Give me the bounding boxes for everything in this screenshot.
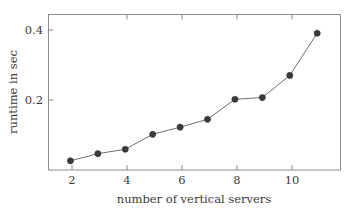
x-tick-label-10: 10 — [285, 173, 300, 187]
data-point — [67, 158, 73, 164]
x-tick-label-2: 2 — [68, 173, 75, 187]
data-point — [287, 72, 293, 78]
x-axis-title: number of vertical servers — [117, 192, 272, 206]
x-tick-label-4: 4 — [123, 173, 130, 187]
x-tick-label-6: 6 — [178, 173, 185, 187]
data-point — [259, 94, 265, 100]
y-tick-label-0.4: 0.4 — [25, 23, 43, 37]
data-point — [177, 124, 183, 130]
data-point — [204, 116, 210, 122]
data-point — [150, 131, 156, 137]
data-point — [314, 30, 320, 36]
data-point — [95, 151, 101, 157]
chart-page: 0.4 0.2 2 4 6 8 10 number of vertical se… — [0, 0, 357, 210]
y-axis-title: runtime in sec — [6, 50, 20, 134]
y-tick-label-0.2: 0.2 — [25, 93, 43, 107]
x-tick-label-8: 8 — [233, 173, 240, 187]
data-point — [122, 146, 128, 152]
data-point — [232, 96, 238, 102]
runtime-line-chart: 0.4 0.2 2 4 6 8 10 number of vertical se… — [0, 0, 357, 210]
